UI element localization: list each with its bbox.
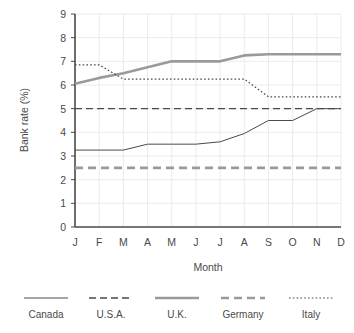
y-tick-label: 0: [60, 221, 66, 233]
y-tick-label: 1: [60, 197, 66, 209]
x-tick-label: M: [167, 236, 176, 248]
legend-label-usa: U.S.A.: [97, 309, 126, 320]
bank-rate-line-chart: 0123456789 JFMAMJJASOND Bank rate (%) Mo…: [0, 0, 354, 333]
y-tick-label: 4: [60, 126, 66, 138]
y-tick-label: 5: [60, 103, 66, 115]
x-tick-label: S: [265, 236, 272, 248]
legend-label-canada: Canada: [28, 309, 63, 320]
x-tick-label: A: [241, 236, 248, 248]
x-tick-label: D: [337, 236, 345, 248]
y-axis-tick-labels: 0123456789: [60, 8, 75, 233]
y-tick-label: 6: [60, 79, 66, 91]
x-axis-title: Month: [193, 261, 222, 273]
x-tick-label: M: [119, 236, 128, 248]
y-tick-label: 9: [60, 8, 66, 20]
x-tick-label: F: [96, 236, 102, 248]
x-tick-label: A: [144, 236, 151, 248]
y-tick-label: 7: [60, 55, 66, 67]
chart-legend: CanadaU.S.A.U.K.GermanyItaly: [24, 298, 333, 320]
legend-label-uk: U.K.: [167, 309, 186, 320]
y-tick-label: 8: [60, 32, 66, 44]
y-tick-label: 2: [60, 174, 66, 186]
x-tick-label: J: [72, 236, 77, 248]
x-tick-label: J: [217, 236, 222, 248]
x-tick-label: J: [193, 236, 198, 248]
x-axis-tick-labels: JFMAMJJASOND: [72, 236, 345, 248]
x-tick-label: O: [289, 236, 297, 248]
legend-label-germany: Germany: [222, 309, 263, 320]
plot-background: [75, 14, 341, 227]
legend-label-italy: Italy: [302, 309, 320, 320]
y-tick-label: 3: [60, 150, 66, 162]
x-tick-label: N: [313, 236, 321, 248]
chart-svg: 0123456789 JFMAMJJASOND Bank rate (%) Mo…: [0, 0, 354, 333]
y-axis-title: Bank rate (%): [18, 88, 30, 152]
